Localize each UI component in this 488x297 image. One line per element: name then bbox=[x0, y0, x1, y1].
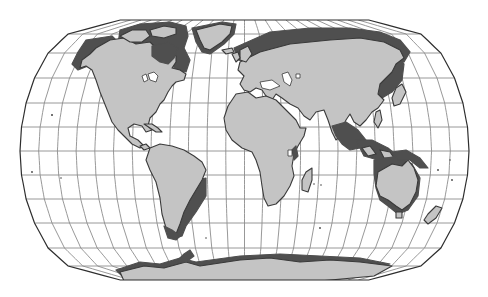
meridian-line bbox=[207, 20, 224, 280]
south-america bbox=[146, 144, 206, 240]
meridian-line bbox=[188, 20, 213, 280]
australia bbox=[374, 150, 442, 224]
world-map bbox=[0, 0, 488, 297]
north-america bbox=[72, 22, 190, 150]
meridian-line bbox=[226, 20, 234, 280]
antarctica bbox=[116, 250, 392, 281]
greenland bbox=[192, 22, 236, 54]
world-map-svg bbox=[0, 0, 488, 297]
